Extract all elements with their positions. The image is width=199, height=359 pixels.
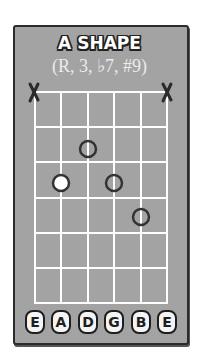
- string-label-b: B: [131, 310, 151, 334]
- string-label-g: G: [104, 310, 124, 334]
- string-label-a: A: [51, 310, 71, 334]
- fret-lines: [34, 92, 168, 303]
- string-label-high-e: E: [157, 310, 177, 334]
- fretboard-diagram: [0, 0, 199, 359]
- string-label-low-e: E: [25, 310, 45, 334]
- string-label-d: D: [78, 310, 98, 334]
- root-note-dot: [53, 175, 69, 191]
- string-name-row: E A D G B E: [0, 310, 199, 334]
